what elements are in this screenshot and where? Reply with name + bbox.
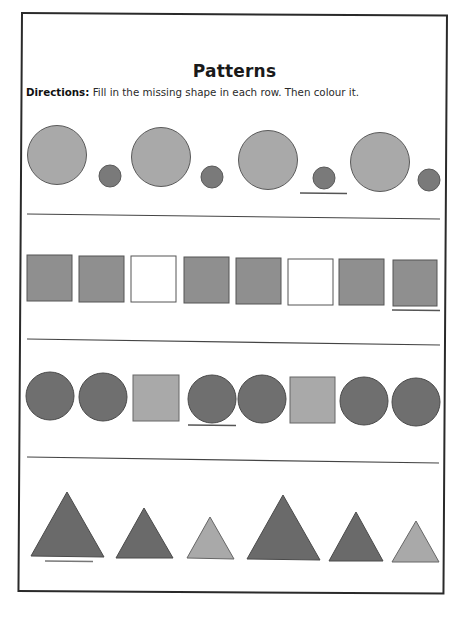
shape-square bbox=[236, 258, 281, 304]
shape-circle-answer[interactable] bbox=[188, 375, 236, 423]
shape-small-triangle bbox=[187, 517, 234, 559]
shape-circle bbox=[79, 373, 127, 421]
row-1-circles bbox=[28, 126, 441, 192]
shape-large-circle bbox=[28, 126, 87, 185]
shape-small-circle bbox=[201, 166, 223, 188]
shape-square-blank bbox=[131, 256, 176, 302]
answer-underline-row-4 bbox=[45, 561, 93, 562]
shape-square bbox=[290, 377, 335, 423]
shape-small-circle bbox=[99, 165, 121, 187]
shape-medium-triangle bbox=[329, 512, 383, 561]
answer-underline-row-1 bbox=[300, 193, 347, 194]
shape-square bbox=[79, 256, 124, 302]
shape-large-triangle-answer[interactable] bbox=[31, 492, 104, 557]
row-divider-3 bbox=[27, 457, 439, 463]
answer-underline-row-2 bbox=[392, 310, 440, 311]
shape-large-circle bbox=[132, 128, 191, 187]
shape-circle bbox=[238, 375, 286, 423]
row-4-triangles bbox=[31, 492, 439, 562]
shape-large-circle bbox=[239, 131, 298, 190]
shape-large-circle bbox=[351, 133, 410, 192]
shape-circle bbox=[340, 377, 388, 425]
shape-circle bbox=[26, 372, 74, 420]
answer-underline-row-3 bbox=[188, 425, 236, 426]
shape-square bbox=[339, 259, 384, 305]
shape-square-blank bbox=[288, 259, 333, 305]
shape-large-triangle bbox=[247, 495, 320, 560]
shape-circle bbox=[392, 378, 440, 426]
row-divider-2 bbox=[27, 339, 440, 345]
shape-square bbox=[27, 255, 72, 301]
shape-small-triangle bbox=[392, 521, 439, 562]
row-divider-1 bbox=[27, 214, 440, 219]
row-3-mixed bbox=[26, 372, 440, 426]
shape-small-circle bbox=[418, 169, 440, 191]
row-2-squares bbox=[27, 255, 437, 306]
shape-medium-triangle bbox=[116, 508, 173, 558]
shape-square bbox=[184, 257, 229, 303]
shape-square-answer[interactable] bbox=[393, 260, 437, 306]
shape-square bbox=[133, 375, 179, 421]
shape-small-circle-answer[interactable] bbox=[313, 167, 335, 189]
pattern-shapes bbox=[0, 0, 471, 628]
